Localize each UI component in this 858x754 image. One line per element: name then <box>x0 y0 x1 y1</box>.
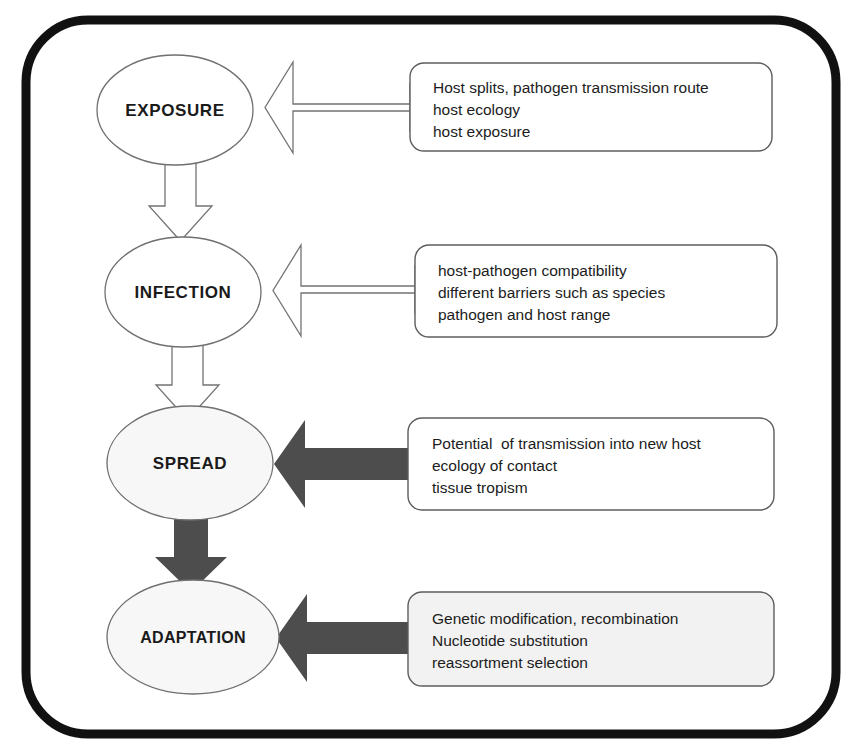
factor-box-exposure-line-3: host exposure <box>433 123 530 140</box>
arrow-to-infection <box>273 245 415 336</box>
arrow-to-spread <box>274 420 408 508</box>
factor-box-spread-line-3: tissue tropism <box>432 479 528 496</box>
factor-box-exposure-line-1: Host splits, pathogen transmission route <box>433 79 709 96</box>
stage-label-adaptation: ADAPTATION <box>140 629 246 646</box>
stage-node-spread[interactable]: SPREAD <box>107 406 273 520</box>
factor-box-adaptation-line-3: reassortment selection <box>432 654 588 671</box>
stage-node-exposure[interactable]: EXPOSURE <box>97 55 253 165</box>
diagram-canvas: EXPOSURE INFECTION SPREAD ADAPTATION Hos… <box>0 0 858 754</box>
factor-box-infection[interactable]: host-pathogen compatibility different ba… <box>415 245 777 337</box>
stage-label-infection: INFECTION <box>134 283 231 302</box>
factor-box-spread[interactable]: Potential of transmission into new host … <box>408 418 774 510</box>
stage-node-infection[interactable]: INFECTION <box>105 237 261 347</box>
factor-box-adaptation-line-1: Genetic modification, recombination <box>432 610 678 627</box>
stage-label-exposure: EXPOSURE <box>125 101 224 120</box>
factor-box-adaptation[interactable]: Genetic modification, recombination Nucl… <box>408 592 774 686</box>
factor-box-spread-line-2: ecology of contact <box>432 457 558 474</box>
arrow-to-exposure <box>265 62 410 153</box>
factor-box-infection-line-1: host-pathogen compatibility <box>438 262 627 279</box>
factor-box-adaptation-line-2: Nucleotide substitution <box>432 632 588 649</box>
arrow-to-adaptation <box>276 594 408 682</box>
pathogen-host-jump-diagram: EXPOSURE INFECTION SPREAD ADAPTATION Hos… <box>0 0 858 754</box>
stage-label-spread: SPREAD <box>153 454 227 473</box>
factor-box-infection-line-3: pathogen and host range <box>438 306 610 323</box>
stage-node-adaptation[interactable]: ADAPTATION <box>107 580 279 694</box>
factor-box-infection-line-2: different barriers such as species <box>438 284 665 301</box>
factor-box-spread-line-1: Potential of transmission into new host <box>432 435 701 452</box>
arrow-exposure-to-infection <box>149 163 212 241</box>
factor-box-exposure-line-2: host ecology <box>433 101 520 118</box>
factor-box-exposure[interactable]: Host splits, pathogen transmission route… <box>410 63 772 151</box>
